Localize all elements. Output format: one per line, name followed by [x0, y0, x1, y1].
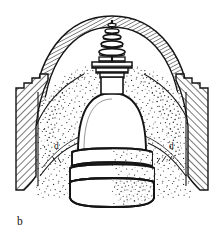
base-cylinder — [70, 178, 154, 207]
banded-drum — [70, 148, 154, 182]
label-d-right: d — [169, 142, 174, 152]
figure-caption-label: b — [17, 216, 23, 228]
cross-section-drawing — [0, 0, 224, 234]
figure-container: d d b — [0, 0, 224, 234]
label-d-left: d — [54, 142, 59, 152]
